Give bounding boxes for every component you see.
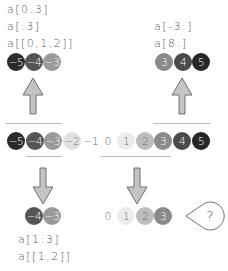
down-arrow-icon-left [33,168,53,204]
question-mark: ? [201,207,219,225]
up-arrow-icon-left [23,78,43,114]
down-arrow-icon-right [127,168,147,204]
up-arrow-icon-right [172,78,192,114]
arrows-layer [0,0,228,271]
